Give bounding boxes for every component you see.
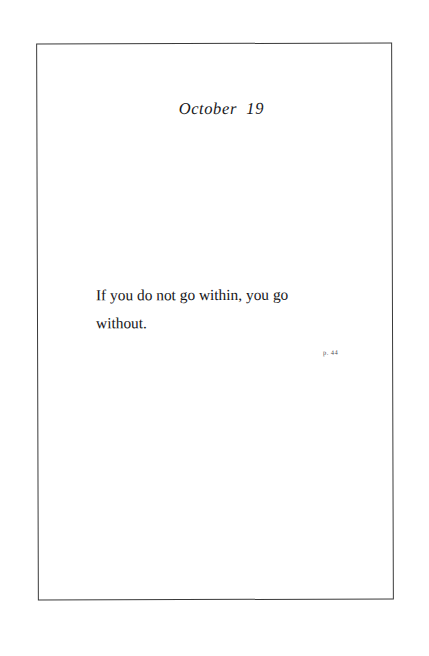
date-heading: October 19: [37, 98, 391, 119]
page-sheet: October 19 If you do not go within, you …: [36, 42, 394, 600]
quote-text: If you do not go within, you go without.: [96, 281, 321, 338]
source-citation: p. 44: [38, 349, 338, 357]
page-content-area: October 19 If you do not go within, you …: [37, 43, 393, 599]
